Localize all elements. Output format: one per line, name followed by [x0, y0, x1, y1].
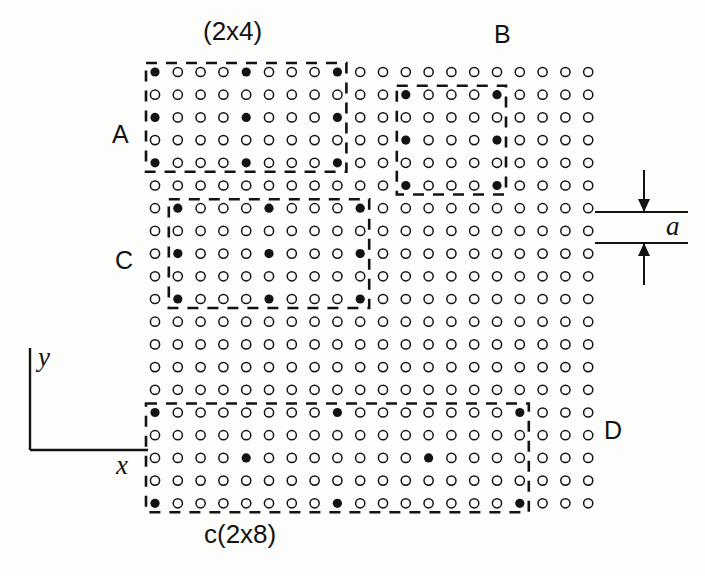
- open-circle: [378, 136, 387, 145]
- filled-circle: [356, 204, 365, 213]
- open-circle: [561, 181, 570, 190]
- open-circle: [378, 408, 387, 417]
- open-circle: [242, 204, 251, 213]
- open-circle: [515, 67, 524, 76]
- open-circle: [401, 204, 410, 213]
- open-circle: [264, 431, 273, 440]
- open-circle: [242, 249, 251, 258]
- open-circle: [401, 453, 410, 462]
- open-circle: [492, 385, 501, 394]
- filled-circle: [150, 113, 159, 122]
- open-circle: [470, 340, 479, 349]
- open-circle: [150, 294, 159, 303]
- open-circle: [424, 385, 433, 394]
- open-circle: [264, 363, 273, 372]
- filled-circle: [356, 294, 365, 303]
- open-circle: [196, 90, 205, 99]
- open-circle: [584, 272, 593, 281]
- open-circle: [470, 272, 479, 281]
- open-circle: [196, 317, 205, 326]
- open-circle: [584, 385, 593, 394]
- open-circle: [424, 272, 433, 281]
- open-circle: [401, 340, 410, 349]
- open-circle: [287, 476, 296, 485]
- open-circle: [561, 340, 570, 349]
- open-circle: [173, 317, 182, 326]
- open-circle: [561, 90, 570, 99]
- open-circle: [150, 272, 159, 281]
- open-circle: [287, 90, 296, 99]
- open-circle: [378, 453, 387, 462]
- open-circle: [492, 431, 501, 440]
- filled-circle: [333, 67, 342, 76]
- open-circle: [219, 294, 228, 303]
- open-circle: [470, 158, 479, 167]
- open-circle: [584, 408, 593, 417]
- open-circle: [150, 340, 159, 349]
- open-circle: [287, 249, 296, 258]
- open-circle: [173, 453, 182, 462]
- filled-circle: [150, 67, 159, 76]
- open-circle: [492, 476, 501, 485]
- open-circle: [378, 317, 387, 326]
- open-circle: [515, 113, 524, 122]
- filled-circle: [492, 136, 501, 145]
- open-circle: [378, 181, 387, 190]
- open-circle: [333, 272, 342, 281]
- open-circle: [515, 385, 524, 394]
- open-circle: [150, 476, 159, 485]
- open-circle: [584, 363, 593, 372]
- unit-cell-box-D: [146, 404, 529, 513]
- open-circle: [219, 499, 228, 508]
- open-circle: [538, 385, 547, 394]
- open-circle: [196, 113, 205, 122]
- open-circle: [447, 272, 456, 281]
- open-circle: [492, 408, 501, 417]
- open-circle: [150, 249, 159, 258]
- open-circle: [219, 67, 228, 76]
- open-circle: [470, 226, 479, 235]
- open-circle: [515, 363, 524, 372]
- open-circle: [310, 408, 319, 417]
- open-circle: [401, 158, 410, 167]
- open-circle: [310, 363, 319, 372]
- open-circle: [287, 136, 296, 145]
- open-circle: [287, 113, 296, 122]
- open-circle: [356, 340, 365, 349]
- filled-circle: [401, 90, 410, 99]
- open-circle: [447, 249, 456, 258]
- filled-circle: [515, 408, 524, 417]
- open-circle: [538, 113, 547, 122]
- filled-circle: [173, 204, 182, 213]
- open-circle: [561, 363, 570, 372]
- open-circle: [287, 453, 296, 462]
- filled-circle: [264, 204, 273, 213]
- open-circle: [150, 453, 159, 462]
- open-circle: [584, 204, 593, 213]
- open-circle: [287, 272, 296, 281]
- open-circle: [242, 136, 251, 145]
- open-circle: [561, 408, 570, 417]
- open-circle: [173, 363, 182, 372]
- open-circle: [492, 499, 501, 508]
- open-circle: [447, 363, 456, 372]
- open-circle: [264, 408, 273, 417]
- filled-circle: [492, 181, 501, 190]
- open-circle: [424, 340, 433, 349]
- open-circle: [173, 340, 182, 349]
- open-circle: [196, 363, 205, 372]
- open-circle: [356, 385, 365, 394]
- open-circle: [219, 272, 228, 281]
- lattice-diagram: [0, 0, 705, 576]
- open-circle: [150, 204, 159, 213]
- open-circle: [196, 385, 205, 394]
- axis-label-x: x: [116, 452, 128, 479]
- open-circle: [287, 226, 296, 235]
- region-label-C: C: [115, 248, 133, 273]
- open-circle: [310, 181, 319, 190]
- open-circle: [492, 158, 501, 167]
- filled-circle: [401, 136, 410, 145]
- filled-circle: [356, 249, 365, 258]
- open-circle: [515, 476, 524, 485]
- open-circle: [584, 294, 593, 303]
